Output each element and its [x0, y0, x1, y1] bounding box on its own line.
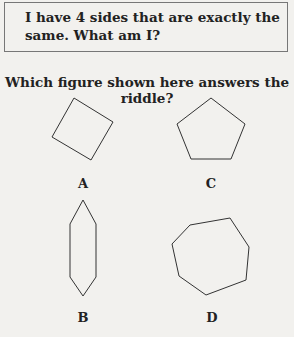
- figures-canvas: [0, 0, 294, 337]
- figure-b-label: B: [73, 310, 93, 325]
- figure-c-pentagon: [177, 98, 245, 159]
- figure-a-square: [52, 98, 113, 160]
- figure-d-label: D: [202, 310, 222, 325]
- figure-d-heptagon: [172, 218, 249, 295]
- figure-b-hexagon: [70, 200, 96, 296]
- figure-c-label: C: [201, 176, 221, 191]
- figure-a-label: A: [73, 176, 93, 191]
